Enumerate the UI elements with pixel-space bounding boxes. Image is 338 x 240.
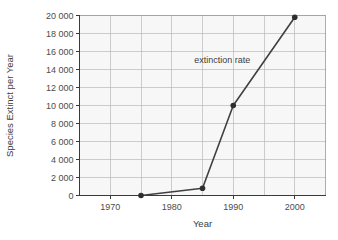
y-axis-tick-labels: 02 0004 0006 0008 00010 00012 00014 0001… xyxy=(46,11,74,201)
chart-annotations: extinction rate xyxy=(194,55,250,65)
chart-container: 02 0004 0006 0008 00010 00012 00014 0001… xyxy=(0,0,338,240)
y-tick-label: 8 000 xyxy=(51,119,74,129)
y-tick-label: 14 000 xyxy=(46,65,74,75)
y-tick-label: 20 000 xyxy=(46,11,74,21)
x-axis-tick-labels: 1970198019902000 xyxy=(100,202,305,212)
data-point-marker xyxy=(138,193,144,199)
x-tick-label: 1980 xyxy=(162,202,182,212)
y-tick-label: 6 000 xyxy=(51,137,74,147)
x-axis-title: Year xyxy=(193,218,212,229)
data-point-marker xyxy=(292,14,298,20)
x-tick-label: 2000 xyxy=(285,202,305,212)
y-tick-label: 10 000 xyxy=(46,101,74,111)
data-point-marker xyxy=(200,186,206,192)
y-tick-label: 18 000 xyxy=(46,29,74,39)
x-tick-label: 1990 xyxy=(223,202,243,212)
data-point-marker xyxy=(230,103,236,109)
y-tick-label: 0 xyxy=(68,191,73,201)
y-tick-label: 16 000 xyxy=(46,47,74,57)
y-tick-label: 4 000 xyxy=(51,155,74,165)
y-tick-label: 12 000 xyxy=(46,83,74,93)
annotation-extinction-rate: extinction rate xyxy=(194,55,250,65)
y-tick-label: 2 000 xyxy=(51,173,74,183)
extinction-rate-line-chart: 02 0004 0006 0008 00010 00012 00014 0001… xyxy=(0,0,338,240)
x-tick-label: 1970 xyxy=(100,202,120,212)
y-axis-title: Species Extinct per Year xyxy=(4,54,15,157)
